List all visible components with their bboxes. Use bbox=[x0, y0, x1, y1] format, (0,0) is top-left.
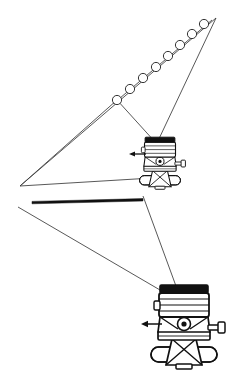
upper-baseline-to-station bbox=[20, 178, 152, 186]
instrument-lower-theodolite[interactable] bbox=[151, 285, 225, 369]
instrument-upper-theodolite[interactable] bbox=[140, 137, 186, 189]
target-circle bbox=[151, 62, 160, 71]
diagram-canvas bbox=[0, 0, 238, 375]
lower-sight-line-left-vertex-to-station bbox=[18, 207, 172, 297]
target-circle bbox=[199, 19, 208, 28]
target-circle bbox=[112, 95, 121, 104]
target-circle bbox=[163, 51, 172, 60]
lower-sight-line-baseline-to-station bbox=[143, 196, 180, 297]
target-circles bbox=[112, 19, 208, 104]
upper-sight-line-apex-to-station bbox=[157, 18, 216, 143]
upper-sight-line-target-to-station bbox=[117, 100, 156, 143]
target-circle bbox=[125, 84, 134, 93]
lower-sight-lines bbox=[18, 196, 180, 297]
figure-root bbox=[0, 0, 238, 375]
target-circle bbox=[175, 40, 184, 49]
target-circle bbox=[138, 73, 147, 82]
target-circle bbox=[187, 29, 196, 38]
upper-sight-line-target-to-left-vertex bbox=[20, 100, 117, 186]
target-chain bbox=[112, 19, 212, 104]
baseline-bar bbox=[32, 199, 143, 204]
